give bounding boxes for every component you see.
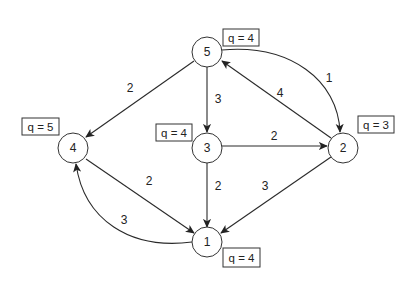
edge-weight-5-3: 3 <box>215 92 222 106</box>
edge-2-to-1 <box>221 157 331 233</box>
q-box-node-5: q = 4 <box>223 29 259 46</box>
edge-1-to-4 <box>76 164 192 243</box>
node-2-label: 2 <box>340 141 347 155</box>
node-3-label: 3 <box>204 141 211 155</box>
edge-weight-5-4: 2 <box>127 81 134 95</box>
node-5: 5 <box>192 37 222 67</box>
q-label-node-4: q = 5 <box>28 121 54 133</box>
edge-weight-5-2: 1 <box>326 71 333 85</box>
q-box-node-4: q = 5 <box>22 118 59 135</box>
edge-weight-2-5: 4 <box>277 86 284 100</box>
node-2: 2 <box>328 133 358 163</box>
q-box-node-3: q = 4 <box>156 124 192 141</box>
edge-weight-4-1: 2 <box>146 174 153 188</box>
edge-weight-3-2: 2 <box>271 129 278 143</box>
q-label-node-5: q = 4 <box>228 32 255 44</box>
node-4: 4 <box>58 133 88 163</box>
graph-diagram: 2 3 1 4 2 2 3 2 3 5 4 3 2 1 q = 4 <box>0 0 414 284</box>
node-1: 1 <box>192 227 222 257</box>
q-box-node-1: q = 4 <box>223 248 260 267</box>
node-1-label: 1 <box>204 235 211 249</box>
edge-weight-2-1: 3 <box>262 179 269 193</box>
node-5-label: 5 <box>204 45 211 59</box>
q-label-node-3: q = 4 <box>161 127 188 139</box>
q-box-node-2: q = 3 <box>358 116 394 133</box>
edge-4-to-1 <box>86 159 194 233</box>
q-label-node-2: q = 3 <box>363 119 389 131</box>
edge-weight-3-1: 2 <box>215 179 222 193</box>
edge-weight-1-4: 3 <box>121 213 128 227</box>
q-label-node-1: q = 4 <box>229 252 256 264</box>
node-3: 3 <box>192 133 222 163</box>
node-4-label: 4 <box>70 141 77 155</box>
